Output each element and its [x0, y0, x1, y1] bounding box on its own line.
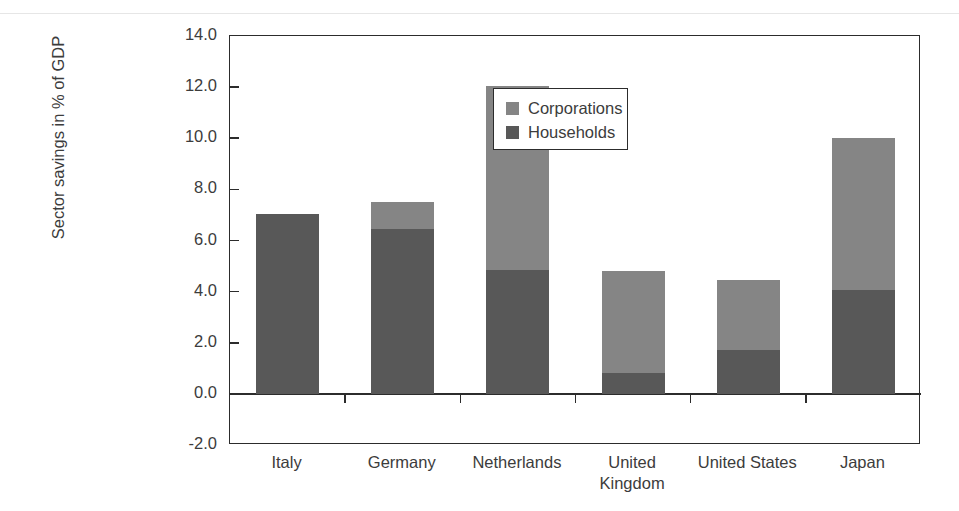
bar-segment-corporations [371, 202, 434, 229]
y-tick-label: 8.0 [147, 178, 217, 197]
y-tick-label: -2.0 [147, 434, 217, 453]
x-tick-mark [344, 394, 346, 403]
x-tick-label-line: Japan [782, 452, 942, 473]
y-axis-title: Sector savings in % of GDP [49, 0, 68, 288]
y-tick-mark [230, 291, 239, 293]
bar-segment-corporations [717, 280, 780, 350]
bar-chart-figure: Sector savings in % of GDP 14.012.010.08… [0, 0, 959, 511]
y-tick-label: 6.0 [147, 230, 217, 249]
bar-segment-households [832, 290, 895, 394]
bar-segment-households [602, 373, 665, 393]
legend-label: Households [528, 123, 615, 142]
bar-segment-households [371, 229, 434, 394]
legend-swatch [506, 102, 519, 115]
y-tick-label: 4.0 [147, 281, 217, 300]
legend-item: Corporations [506, 96, 627, 120]
bar-group [832, 36, 895, 445]
y-tick-label: 12.0 [147, 76, 217, 95]
bar-segment-households [717, 350, 780, 393]
bar-segment-corporations [602, 271, 665, 373]
x-tick-mark [690, 394, 692, 403]
y-tick-mark [230, 342, 239, 344]
y-tick-mark [230, 189, 239, 191]
bar-segment-households [486, 270, 549, 394]
x-tick-label-line: Kingdom [552, 473, 712, 494]
x-tick-label: Japan [782, 452, 942, 473]
x-tick-mark [575, 394, 577, 403]
bar-group [371, 36, 434, 445]
y-tick-mark [230, 137, 239, 139]
y-tick-label: 0.0 [147, 383, 217, 402]
y-tick-label: 2.0 [147, 332, 217, 351]
x-tick-mark [460, 394, 462, 403]
y-tick-label: 14.0 [147, 25, 217, 44]
y-tick-mark [230, 240, 239, 242]
bar-segment-households [256, 214, 319, 394]
plot-area: 14.012.010.08.06.04.02.00.0-2.0 Corporat… [229, 35, 920, 444]
legend-item: Households [506, 120, 627, 144]
legend-label: Corporations [528, 99, 622, 118]
x-tick-mark [805, 394, 807, 403]
y-tick-mark [230, 86, 239, 88]
legend-swatch [506, 126, 519, 139]
bar-group [256, 36, 319, 445]
chart-legend: CorporationsHouseholds [493, 88, 628, 150]
bar-segment-corporations [832, 138, 895, 290]
bar-group [717, 36, 780, 445]
y-tick-label: 10.0 [147, 127, 217, 146]
